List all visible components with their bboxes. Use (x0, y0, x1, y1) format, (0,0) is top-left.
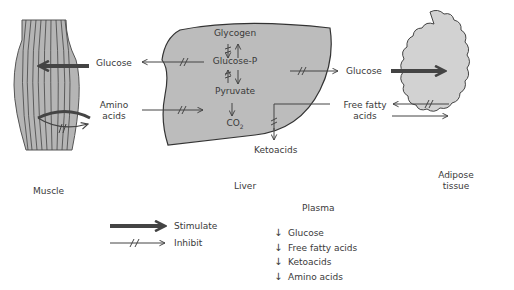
label-glucose-muscle: Glucose (96, 58, 132, 69)
label-ffa-line1: Free fatty (338, 100, 392, 111)
legend-stimulate-label: Stimulate (174, 221, 217, 232)
label-pyruvate: Pyruvate (205, 86, 265, 97)
muscle-shape (14, 20, 79, 150)
adipose-shape (401, 10, 470, 111)
plasma-item: ↓Glucose (274, 226, 357, 241)
down-arrow-icon: ↓ (274, 241, 288, 256)
label-ketoacids: Ketoacids (254, 145, 297, 156)
plasma-list: ↓Glucose ↓Free fatty acids ↓Ketoacids ↓A… (274, 226, 357, 284)
plasma-item-label: Glucose (288, 228, 324, 238)
co2-subscript: 2 (240, 123, 244, 130)
down-arrow-icon: ↓ (274, 226, 288, 241)
label-glucose-p: Glucose-P (205, 56, 265, 67)
label-amino-acids: Amino acids (97, 100, 131, 122)
label-amino-line1: Amino (97, 100, 131, 111)
label-co2: CO2 (205, 118, 265, 132)
label-adipose-tissue: Adipose tissue (436, 170, 476, 192)
label-adipose-line1: Adipose (436, 170, 476, 181)
label-glucose-adipose: Glucose (346, 66, 382, 77)
plasma-item-label: Ketoacids (288, 257, 331, 267)
plasma-item: ↓Amino acids (274, 270, 357, 285)
plasma-item: ↓Ketoacids (274, 255, 357, 270)
legend-inhibit-label: Inhibit (174, 238, 202, 249)
down-arrow-icon: ↓ (274, 255, 288, 270)
label-liver: Liver (234, 181, 256, 192)
co2-text: CO (226, 118, 239, 128)
label-muscle: Muscle (33, 186, 64, 197)
plasma-item-label: Amino acids (288, 272, 343, 282)
plasma-title: Plasma (302, 203, 334, 214)
label-amino-line2: acids (97, 111, 131, 122)
label-ffa-line2: acids (338, 111, 392, 122)
label-glycogen: Glycogen (205, 28, 265, 39)
plasma-item-label: Free fatty acids (288, 243, 357, 253)
label-free-fatty-acids: Free fatty acids (338, 100, 392, 122)
plasma-item: ↓Free fatty acids (274, 241, 357, 256)
label-adipose-line2: tissue (436, 181, 476, 192)
down-arrow-icon: ↓ (274, 270, 288, 285)
